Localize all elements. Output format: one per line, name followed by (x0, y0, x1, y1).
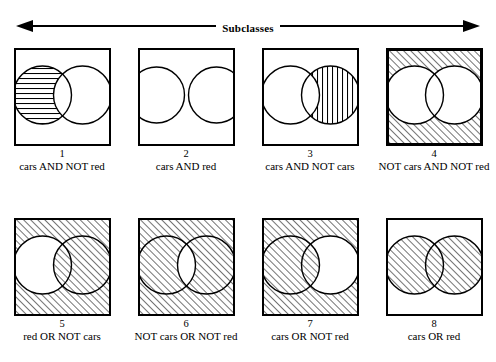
venn-diagram-1 (14, 48, 111, 146)
venn-caption-7: cars OR NOT red (271, 330, 349, 343)
venn-caption-8: cars OR red (408, 330, 461, 343)
venn-row-1: 1cars AND NOT red2cars AND red3cars AND … (0, 44, 496, 214)
venn-cell-4: 4NOT cars AND NOT red (372, 44, 496, 214)
venn-number-3: 3 (307, 148, 312, 160)
subclasses-label: Subclasses (0, 22, 496, 34)
venn-number-8: 8 (431, 318, 436, 330)
venn-caption-6: NOT cars OR NOT red (135, 330, 238, 343)
venn-caption-4: NOT cars AND NOT red (379, 160, 490, 173)
venn-diagram-8 (386, 218, 483, 316)
venn-diagram-4 (386, 48, 483, 146)
venn-diagram-5 (14, 218, 111, 316)
venn-cell-6: 6NOT cars OR NOT red (124, 214, 248, 362)
venn-subclasses-figure: Subclasses 1cars AND NOT red2cars AND re… (0, 0, 496, 362)
venn-diagram-7 (262, 218, 359, 316)
venn-number-6: 6 (183, 318, 188, 330)
venn-cell-3: 3cars AND NOT cars (248, 44, 372, 214)
venn-grid: 1cars AND NOT red2cars AND red3cars AND … (0, 44, 496, 362)
region-outside (386, 48, 483, 146)
venn-number-4: 4 (431, 148, 436, 160)
venn-number-7: 7 (307, 318, 312, 330)
subclasses-label-text: Subclasses (216, 22, 280, 34)
venn-caption-1: cars AND NOT red (19, 160, 105, 173)
venn-cell-8: 8cars OR red (372, 214, 496, 362)
venn-number-1: 1 (59, 148, 64, 160)
venn-caption-5: red OR NOT cars (23, 330, 101, 343)
venn-diagram-6 (138, 218, 235, 316)
subclasses-arrow-band: Subclasses (0, 10, 496, 42)
venn-cell-1: 1cars AND NOT red (0, 44, 124, 214)
venn-diagram-3 (262, 48, 359, 146)
venn-diagram-2 (138, 48, 235, 146)
venn-caption-2: cars AND red (156, 160, 216, 173)
venn-cell-2: 2cars AND red (124, 44, 248, 214)
venn-caption-3: cars AND NOT cars (265, 160, 354, 173)
venn-cell-7: 7cars OR NOT red (248, 214, 372, 362)
venn-row-2: 5red OR NOT cars6NOT cars OR NOT red7car… (0, 214, 496, 362)
venn-cell-5: 5red OR NOT cars (0, 214, 124, 362)
venn-number-2: 2 (183, 148, 188, 160)
venn-number-5: 5 (59, 318, 64, 330)
